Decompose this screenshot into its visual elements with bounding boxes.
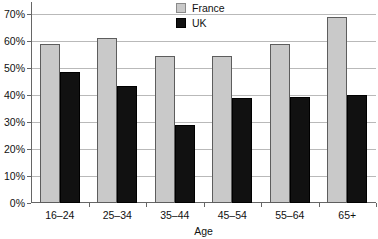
bar-group <box>261 2 319 203</box>
chart-legend: France UK <box>176 1 225 31</box>
bar-chart: 70%60%50%40%30%20%10%0% 16–2425–3435–444… <box>0 0 378 239</box>
y-axis-tick-label: 0% <box>0 198 25 209</box>
bar-france-35-44 <box>155 56 175 203</box>
bar-group <box>319 2 377 203</box>
y-axis-tick-label: 20% <box>0 144 25 155</box>
uk-swatch-icon <box>176 18 186 28</box>
y-axis-tick-label: 50% <box>0 63 25 74</box>
bar-uk-35-44 <box>175 125 195 203</box>
y-axis-tick-label: 30% <box>0 117 25 128</box>
legend-label-france: France <box>192 3 225 14</box>
france-swatch-icon <box>176 3 186 13</box>
bar-group <box>31 2 89 203</box>
legend-item-uk: UK <box>176 16 225 30</box>
x-axis-tick-mark <box>376 203 377 207</box>
x-axis-tick-mark <box>146 203 147 207</box>
bar-france-25-34 <box>97 38 117 204</box>
x-axis-tick-label: 65+ <box>312 209 378 221</box>
x-axis-tick-mark <box>319 203 320 207</box>
bar-france-16-24 <box>40 44 60 203</box>
y-axis-tick-label: 40% <box>0 90 25 101</box>
bar-uk-55-64 <box>290 97 310 203</box>
y-axis-tick-label: 60% <box>0 36 25 47</box>
y-axis-tick-label: 10% <box>0 171 25 182</box>
legend-label-uk: UK <box>192 18 207 29</box>
bar-group <box>146 2 204 203</box>
bar-uk-16-24 <box>60 72 80 203</box>
bar-france-55-64 <box>270 44 290 203</box>
bar-france-45-54 <box>212 56 232 203</box>
x-axis-tick-mark <box>89 203 90 207</box>
y-axis-tick-mark <box>27 203 31 204</box>
bar-uk-25-34 <box>117 86 137 203</box>
bars-layer <box>31 2 376 203</box>
x-axis-title: Age <box>31 225 376 237</box>
bar-uk-45-54 <box>232 98 252 203</box>
legend-item-france: France <box>176 1 225 15</box>
y-axis-tick-label: 70% <box>0 9 25 20</box>
x-axis-tick-mark <box>204 203 205 207</box>
bar-uk-65+ <box>347 95 367 203</box>
bar-france-65+ <box>327 17 347 203</box>
bar-group <box>89 2 147 203</box>
bar-group <box>204 2 262 203</box>
x-axis-tick-mark <box>261 203 262 207</box>
